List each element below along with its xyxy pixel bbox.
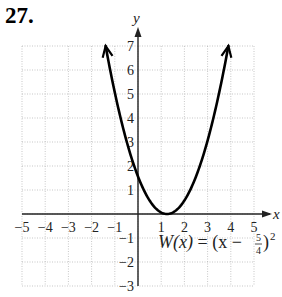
function-label: W(x) = (x − 5 4 ) 2: [158, 230, 276, 256]
x-tick-label: −4: [38, 220, 53, 235]
function-exponent: 2: [270, 230, 276, 242]
svg-text:W(x) = (x −: W(x) = (x −: [158, 232, 242, 253]
parabola-curve: [103, 46, 232, 214]
x-tick-label: −5: [15, 220, 30, 235]
x-axis-arrow-icon: [262, 211, 272, 218]
y-tick-label: 6: [127, 63, 134, 78]
y-tick-label: −1: [119, 231, 134, 246]
function-equals: = (x −: [193, 232, 242, 253]
y-tick-label: 1: [127, 183, 134, 198]
y-axis-label: y: [131, 10, 140, 26]
y-tick-label: 7: [127, 39, 134, 54]
x-axis-label: x: [272, 206, 280, 222]
fraction-denominator: 4: [256, 245, 261, 256]
x-tick-label: −3: [61, 220, 76, 235]
function-name: W(x): [158, 232, 193, 253]
y-tick-label: 4: [127, 111, 134, 126]
y-axis-arrow-icon: [135, 27, 142, 37]
function-close-paren: ): [263, 232, 269, 253]
y-tick-label: −3: [119, 279, 134, 294]
parabola-chart: −5−4−3−2−112345−3−2−11234567 x y W(x) = …: [0, 0, 282, 297]
y-tick-label: −2: [119, 255, 134, 270]
parabola-path: [106, 46, 229, 214]
y-tick-label: 5: [127, 87, 134, 102]
x-tick-label: −2: [84, 220, 99, 235]
fraction-numerator: 5: [256, 232, 261, 243]
